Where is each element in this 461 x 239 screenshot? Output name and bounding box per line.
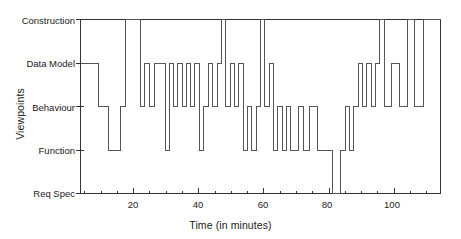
x-axis-title: Time (in minutes) <box>0 219 461 231</box>
xtick-label-20: 20 <box>118 199 148 210</box>
xtick-label-80: 80 <box>312 199 342 210</box>
xtick-label-100: 100 <box>377 199 407 210</box>
xtick-label-60: 60 <box>248 199 278 210</box>
ytick-label-data-model: Data Model <box>13 58 75 69</box>
step-line-series <box>81 20 441 194</box>
xtick-label-40: 40 <box>183 199 213 210</box>
y-axis-title: Viewpoints <box>14 76 26 152</box>
ytick-label-req-spec: Req Spec <box>13 188 75 199</box>
ytick-label-construction: Construction <box>13 15 75 26</box>
viewpoints-time-chart: Construction Data Model Behaviour Functi… <box>0 0 461 239</box>
